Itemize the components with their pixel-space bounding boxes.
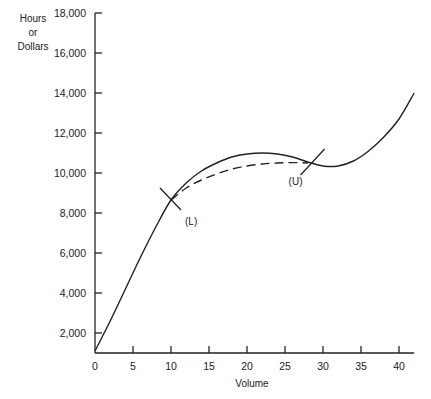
y-tick-label: 4,000	[60, 287, 86, 299]
x-tick-label: 40	[393, 360, 405, 372]
dashed-curve	[171, 163, 308, 200]
x-tick-label: 5	[130, 360, 136, 372]
chart-canvas: 2,0004,0006,0008,00010,00012,00014,00016…	[0, 0, 431, 399]
y-tick-label: 10,000	[54, 167, 86, 179]
y-tick-label: 16,000	[54, 47, 86, 59]
x-tick-label: 30	[317, 360, 329, 372]
y-tick-label: 14,000	[54, 87, 86, 99]
annotations: (L)(U)	[160, 149, 325, 227]
y-axis-label-line-1: Hours	[20, 13, 47, 24]
annotation-label-l: (L)	[185, 216, 197, 227]
y-axis-label-line-2: or	[29, 27, 39, 38]
x-tick-label: 25	[279, 360, 291, 372]
y-tick-label: 6,000	[60, 247, 86, 259]
x-tick-label: 0	[92, 360, 98, 372]
x-tick-label: 10	[165, 360, 177, 372]
solid-curve	[95, 93, 414, 351]
y-axis-label-line-3: Dollars	[17, 41, 48, 52]
y-tick-label: 18,000	[54, 7, 86, 19]
marker-u	[301, 149, 325, 175]
series-group	[95, 93, 414, 351]
x-tick-label: 35	[355, 360, 367, 372]
x-tick-label: 15	[203, 360, 215, 372]
annotation-label-u: (U)	[289, 176, 303, 187]
y-tick-label: 2,000	[60, 327, 86, 339]
axes: 2,0004,0006,0008,00010,00012,00014,00016…	[54, 7, 414, 372]
x-tick-label: 20	[241, 360, 253, 372]
chart: 2,0004,0006,0008,00010,00012,00014,00016…	[0, 0, 431, 399]
y-tick-label: 8,000	[60, 207, 86, 219]
x-axis-label: Volume	[235, 378, 269, 389]
y-tick-label: 12,000	[54, 127, 86, 139]
